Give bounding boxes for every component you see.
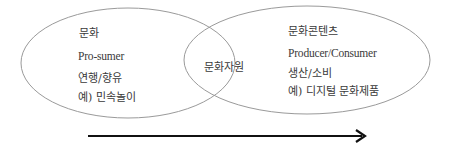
diagram-canvas [0,0,456,148]
arrow-right-icon [88,130,365,142]
left-example: 예) 민속놀이 [78,91,136,104]
left-activity: 연행/향유 [78,72,122,85]
left-title: 문화 [79,27,99,40]
right-example: 예) 디지털 문화제품 [288,85,379,98]
right-role: Producer/Consumer [288,47,377,60]
center-label: 문화자원 [204,61,244,74]
right-title: 문화콘텐츠 [288,25,338,38]
right-activity: 생산/소비 [288,67,332,80]
left-role: Pro-sumer [78,50,124,63]
